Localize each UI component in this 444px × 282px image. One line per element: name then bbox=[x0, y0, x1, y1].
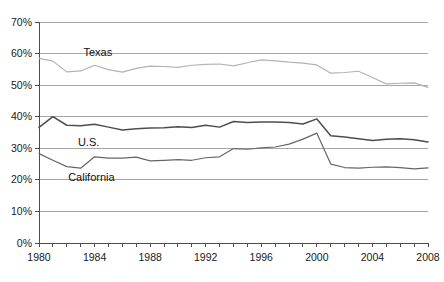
y-axis-label-0: 0% bbox=[0, 238, 32, 249]
line-chart-plot bbox=[0, 0, 444, 282]
x-axis-label-1984: 1984 bbox=[72, 252, 118, 263]
y-axis-label-60: 60% bbox=[0, 48, 32, 59]
y-axis-label-30: 30% bbox=[0, 143, 32, 154]
y-axis-label-70: 70% bbox=[0, 17, 32, 28]
x-axis-label-2008: 2008 bbox=[405, 252, 444, 263]
series-annotation-california: California bbox=[68, 172, 114, 183]
series-annotation-texas: Texas bbox=[83, 47, 112, 58]
x-axis-label-1988: 1988 bbox=[127, 252, 173, 263]
x-axis-label-2000: 2000 bbox=[294, 252, 340, 263]
x-axis-label-1980: 1980 bbox=[16, 252, 62, 263]
y-axis-ticks bbox=[35, 22, 39, 243]
series-annotation-us: U.S. bbox=[78, 137, 99, 148]
data-series bbox=[39, 58, 428, 169]
y-axis-label-50: 50% bbox=[0, 80, 32, 91]
x-axis-label-2004: 2004 bbox=[349, 252, 395, 263]
x-axis-label-1992: 1992 bbox=[183, 252, 229, 263]
y-axis-label-40: 40% bbox=[0, 111, 32, 122]
y-axis-label-10: 10% bbox=[0, 206, 32, 217]
x-axis-ticks bbox=[39, 243, 428, 247]
y-axis-label-20: 20% bbox=[0, 174, 32, 185]
series-line-texas bbox=[39, 58, 428, 87]
x-axis-label-1996: 1996 bbox=[238, 252, 284, 263]
chart-container: 0%10%20%30%40%50%60%70% 1980198419881992… bbox=[0, 0, 444, 282]
